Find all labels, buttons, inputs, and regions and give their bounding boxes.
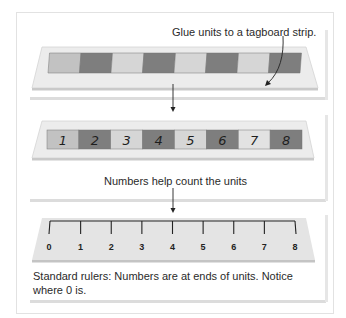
ruler-board [32, 218, 315, 260]
unit-number-label: 8 [282, 133, 290, 148]
ruler-tick-label: 6 [231, 242, 236, 252]
ruler-tick-label: 7 [262, 242, 267, 252]
tagboard-edge-2 [32, 158, 314, 161]
unit-square [269, 53, 302, 73]
down-arrow-head-icon [171, 107, 176, 112]
unit-square [206, 53, 239, 73]
unit-number-label: 6 [218, 133, 226, 148]
ruler-tick-label: 5 [201, 242, 206, 252]
ruler-tick-label: 2 [109, 242, 114, 252]
diagram-artwork: 12345678 012345678 [0, 0, 346, 318]
unit-number-label: 3 [123, 133, 131, 148]
unit-number-label: 2 [91, 133, 99, 148]
ruler-tick-label: 1 [78, 242, 83, 252]
unit-square [48, 53, 81, 73]
ruler-tick-label: 8 [292, 242, 297, 252]
unit-number-label: 7 [250, 133, 259, 148]
unit-number-label: 4 [154, 133, 162, 148]
glued-units [48, 53, 302, 73]
unit-square [143, 53, 176, 73]
ruler-edge [32, 260, 315, 263]
unit-number-label: 5 [186, 133, 194, 148]
numbered-units: 12345678 [47, 130, 302, 149]
ruler-tick-label: 3 [139, 242, 144, 252]
unit-square [80, 53, 113, 73]
down-arrow-head-icon [171, 208, 176, 213]
ruler-tick-label: 0 [46, 242, 51, 252]
unit-square [237, 53, 270, 73]
unit-number-label: 1 [59, 133, 67, 148]
unit-square [174, 53, 207, 73]
unit-square [111, 53, 144, 73]
tagboard-edge-1 [32, 88, 318, 91]
ruler-tick-label: 4 [170, 242, 175, 252]
